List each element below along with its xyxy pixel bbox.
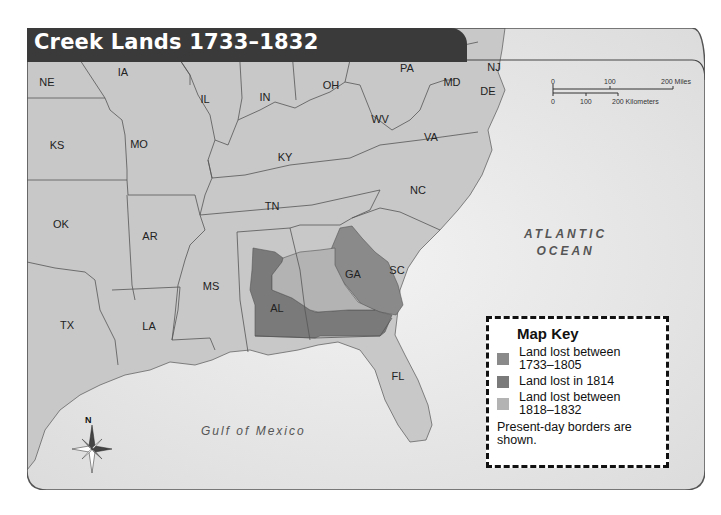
atlantic-ocean-label-line2: OCEAN	[524, 243, 607, 260]
compass-star-icon	[70, 415, 120, 475]
state-label-wv: WV	[371, 113, 389, 125]
legend-label-1733-1805: Land lost between 1733–1805	[519, 346, 658, 372]
legend-note: Present-day borders are shown.	[497, 421, 658, 447]
gulf-of-mexico-label-text: Gulf of Mexico	[201, 424, 306, 438]
state-label-ia: IA	[118, 66, 128, 78]
map-key: Map Key Land lost between 1733–1805 Land…	[486, 316, 669, 468]
legend-item-1814: Land lost in 1814	[497, 375, 658, 388]
state-label-de: DE	[480, 85, 495, 97]
state-label-ar: AR	[142, 230, 157, 242]
legend-swatch-1814	[497, 376, 509, 388]
state-label-ga: GA	[345, 268, 361, 280]
scale-bar: 0 100 200 Miles 0 100 200 Kilometers	[548, 76, 708, 116]
compass-rose: N	[70, 415, 120, 475]
state-label-al: AL	[270, 302, 283, 314]
state-label-va: VA	[424, 131, 438, 143]
map-title: Creek Lands 1733–1832	[34, 30, 318, 54]
state-label-il: IL	[200, 93, 209, 105]
state-label-in: IN	[260, 91, 271, 103]
scale-miles-0: 0	[551, 78, 555, 85]
scale-miles-200: 200 Miles	[661, 78, 691, 85]
gulf-of-mexico-label: Gulf of Mexico	[201, 424, 306, 438]
state-label-nc: NC	[410, 184, 426, 196]
atlantic-ocean-label: ATLANTIC OCEAN	[524, 226, 607, 260]
legend-swatch-1818-1832	[497, 398, 509, 410]
scale-km-200: 200 Kilometers	[612, 98, 659, 105]
state-label-la: LA	[142, 320, 155, 332]
state-label-nj: NJ	[487, 61, 500, 73]
legend-label-1814: Land lost in 1814	[519, 375, 614, 388]
state-label-sc: SC	[389, 264, 404, 276]
state-label-fl: FL	[392, 370, 405, 382]
state-label-ky: KY	[278, 151, 293, 163]
legend-swatch-1733-1805	[497, 353, 509, 365]
legend-item-1818-1832: Land lost between 1818–1832	[497, 391, 658, 417]
scale-km-0: 0	[551, 98, 555, 105]
state-label-tx: TX	[60, 319, 74, 331]
state-label-oh: OH	[323, 79, 340, 91]
state-label-ks: KS	[50, 139, 65, 151]
map-key-title: Map Key	[517, 325, 658, 342]
scale-km-100: 100	[580, 98, 592, 105]
legend-label-1818-1832: Land lost between 1818–1832	[519, 391, 658, 417]
state-label-ne: NE	[39, 76, 54, 88]
state-label-mo: MO	[130, 138, 148, 150]
state-label-ms: MS	[203, 280, 220, 292]
legend-item-1733-1805: Land lost between 1733–1805	[497, 346, 658, 372]
state-label-ok: OK	[53, 218, 69, 230]
state-label-pa: PA	[400, 62, 414, 74]
atlantic-ocean-label-line1: ATLANTIC	[524, 226, 607, 243]
state-label-tn: TN	[265, 200, 280, 212]
scale-miles-100: 100	[604, 78, 616, 85]
state-label-md: MD	[443, 76, 460, 88]
